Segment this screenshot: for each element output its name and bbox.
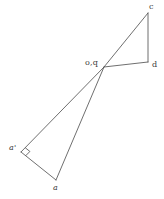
- geometry-figure: c d o,q a' a: [0, 0, 164, 199]
- vertex-label-oq: o,q: [85, 58, 98, 67]
- vertex-label-a: a: [53, 183, 58, 192]
- segment-d-oq: [104, 62, 148, 67]
- vertex-label-c: c: [149, 2, 154, 11]
- segments-group: [21, 13, 148, 180]
- segment-oq-ap: [21, 67, 104, 152]
- segment-oq-c: [104, 13, 148, 67]
- segment-ap-a: [21, 152, 56, 180]
- right-angle-marker: [25, 148, 30, 156]
- segment-a-oq: [56, 67, 104, 180]
- vertex-label-d: d: [152, 60, 157, 69]
- figure-canvas: [0, 0, 164, 199]
- right-angle-marker-group: [25, 148, 30, 156]
- vertex-label-a-prime: a': [9, 143, 16, 152]
